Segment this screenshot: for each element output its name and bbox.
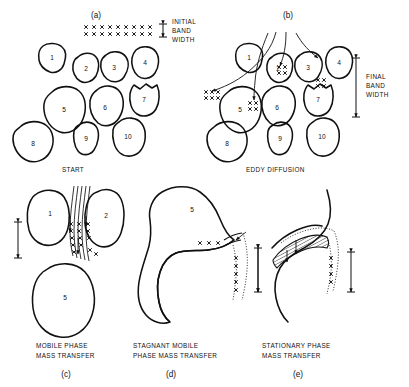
particle-label-2: 2 (276, 65, 280, 72)
final-band-width-line1: FINAL (366, 73, 386, 80)
particle-label-5: 5 (238, 106, 242, 113)
particle-label-5: 5 (190, 206, 194, 213)
panel-d-particle-numbers: 5 (190, 206, 194, 213)
panel-c-caption-line2: MASS TRANSFER (36, 352, 95, 359)
particle-label-2: 2 (84, 65, 88, 72)
panel-c-letter: (c) (61, 370, 71, 379)
panel-e-letter: (e) (293, 370, 303, 379)
panel-d-caption-line1: STAGNANT MOBILE (133, 342, 198, 349)
particle-label-8: 8 (31, 140, 35, 147)
particle-label-4: 4 (337, 59, 341, 66)
initial-band-width-line1: INITIAL (172, 18, 196, 25)
panel-e-caption-line2: MASS TRANSFER (262, 352, 321, 359)
particle-label-9: 9 (84, 135, 88, 142)
panel-e-caption-line1: STATIONARY PHASE (262, 342, 331, 349)
particle-label-1: 1 (50, 54, 54, 61)
particle-label-4: 4 (143, 59, 147, 66)
panel-a-caption: START (62, 166, 84, 173)
particle-label-3: 3 (306, 64, 310, 71)
particle-label-7: 7 (142, 96, 146, 103)
panel-c-caption-line1: MOBILE PHASE (36, 342, 88, 349)
panel-b-caption: EDDY DIFFUSION (246, 166, 305, 173)
band-broadening-figure: (a) INITIAL BAND WIDTH (0, 0, 409, 387)
particle-label-5: 5 (62, 106, 66, 113)
particle-label-1: 1 (247, 54, 251, 61)
final-band-width-line3: WIDTH (366, 91, 389, 98)
particle-label-10: 10 (318, 133, 326, 140)
initial-band-width-line3: WIDTH (172, 36, 195, 43)
particle-label-6: 6 (275, 104, 279, 111)
particle-label-1: 1 (48, 210, 52, 217)
panel-d-letter: (d) (166, 370, 176, 379)
particle-label-6: 6 (103, 104, 107, 111)
particle-label-8: 8 (225, 140, 229, 147)
panel-d-caption-line2: PHASE MASS TRANSFER (133, 352, 217, 359)
particle-label-10: 10 (124, 133, 132, 140)
panel-a-letter: (a) (91, 11, 101, 20)
final-band-width-line2: BAND (366, 82, 385, 89)
particle-label-9: 9 (278, 135, 282, 142)
particle-label-5: 5 (63, 294, 67, 301)
particle-label-3: 3 (112, 64, 116, 71)
panel-b-letter: (b) (283, 11, 293, 20)
particle-label-2: 2 (104, 212, 108, 219)
particle-label-7: 7 (316, 96, 320, 103)
initial-band-width-line2: BAND (172, 27, 191, 34)
